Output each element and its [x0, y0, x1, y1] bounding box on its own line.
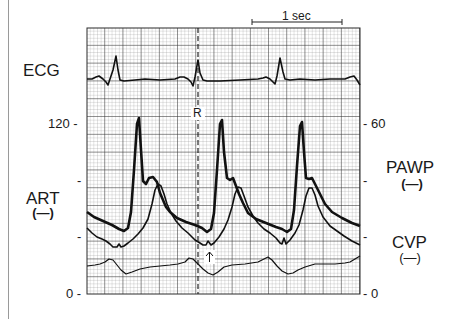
- art-legend-thick-line: (—): [26, 205, 60, 220]
- right-axis-tick-mid-upper: -: [363, 173, 367, 188]
- cvp-legend-thin-line: (—): [393, 250, 427, 265]
- r-wave-label: R: [193, 106, 202, 120]
- pawp-label: PAWP: [386, 158, 434, 178]
- pawp-legend-medium-line: (—): [395, 176, 429, 191]
- right-axis-tick-mid-lower: -: [363, 229, 367, 244]
- ecg-label: ECG: [23, 61, 60, 81]
- left-axis-tick-120: 120 -: [48, 116, 78, 131]
- left-axis-tick-0: 0 -: [66, 286, 81, 301]
- right-axis-tick-0: - 0: [363, 286, 378, 301]
- left-axis-tick-mid-upper: -: [77, 173, 81, 188]
- a-wave-arrow: [204, 250, 215, 264]
- right-axis-tick-60: - 60: [363, 116, 385, 131]
- grid-paper: [87, 28, 360, 294]
- scale-bar-label: 1 sec: [282, 9, 311, 23]
- left-axis-tick-mid-lower: -: [77, 229, 81, 244]
